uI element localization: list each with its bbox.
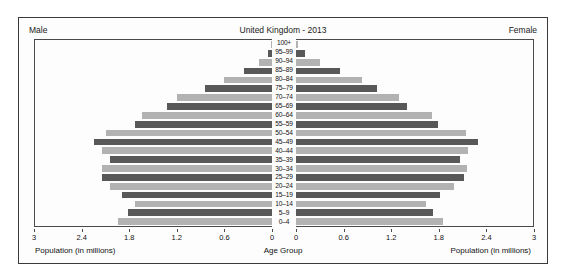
bar-row [296, 146, 533, 155]
bar-row [35, 67, 272, 76]
axis-tick [486, 229, 487, 232]
female-bar [296, 192, 440, 199]
female-plot-panel [296, 39, 534, 227]
axis-tick [344, 229, 345, 232]
bar-row [35, 208, 272, 217]
bar-row [296, 182, 533, 191]
male-bar [118, 218, 272, 225]
female-axis-title: Population (in millions) [451, 246, 531, 255]
bar-row [296, 120, 533, 129]
bar-row [296, 137, 533, 146]
age-group-labels: 100+95–9990–9485–8980–8475–7970–7465–696… [272, 39, 296, 227]
bar-row [296, 199, 533, 208]
male-bar [205, 85, 272, 92]
axis-tick-label: 1.2 [172, 233, 182, 242]
age-group-label: 85–89 [272, 66, 296, 75]
bar-row [296, 129, 533, 138]
axis-tick [177, 229, 178, 232]
axis-tick [34, 229, 35, 232]
age-group-label: 100+ [272, 39, 296, 48]
bar-row [296, 67, 533, 76]
age-group-label: 30–34 [272, 164, 296, 173]
bar-row [296, 111, 533, 120]
female-bar-rows [296, 40, 533, 226]
axis-tick [82, 229, 83, 232]
axis-tick [296, 229, 297, 232]
female-bar [296, 130, 466, 137]
male-bar [259, 59, 272, 66]
bar-row [296, 58, 533, 67]
male-bar [122, 192, 272, 199]
plot-area: 100+95–9990–9485–8980–8475–7970–7465–696… [34, 39, 534, 227]
bar-row [296, 164, 533, 173]
male-plot-panel [34, 39, 272, 227]
bar-row [296, 191, 533, 200]
bar-row [35, 75, 272, 84]
axis-tick-label: 1.2 [386, 233, 396, 242]
male-bar [102, 174, 272, 181]
bar-row [35, 129, 272, 138]
male-bar [142, 112, 272, 119]
axis-tick-label: 2.4 [76, 233, 86, 242]
axis-tick-label: 0 [270, 233, 274, 242]
female-bar [296, 59, 320, 66]
age-group-label: 40–44 [272, 146, 296, 155]
female-bar [296, 112, 432, 119]
female-bar [296, 139, 478, 146]
male-bar [106, 130, 272, 137]
male-bar [244, 68, 272, 75]
age-group-label: 45–49 [272, 137, 296, 146]
axis-tick-label: 3 [32, 233, 36, 242]
bar-row [35, 182, 272, 191]
female-bar [296, 183, 454, 190]
male-bar [177, 94, 272, 101]
axis-tick-label: 0.6 [219, 233, 229, 242]
chart-title: United Kingdom - 2013 [19, 25, 547, 35]
bar-row [35, 120, 272, 129]
bar-row [296, 75, 533, 84]
female-bar [296, 50, 305, 57]
male-bar [224, 77, 272, 84]
female-bar [296, 85, 377, 92]
bar-row [296, 49, 533, 58]
age-group-label: 0–4 [272, 218, 296, 227]
female-bar [296, 147, 468, 154]
male-bar [94, 139, 272, 146]
chart-frame: Male United Kingdom - 2013 Female 100+95… [18, 17, 548, 264]
bar-row [35, 164, 272, 173]
age-group-label: 60–64 [272, 111, 296, 120]
axis-tick [534, 229, 535, 232]
male-bar [110, 156, 272, 163]
bar-row [296, 208, 533, 217]
female-bar [296, 41, 298, 48]
axis-tick [272, 229, 273, 232]
bar-row [35, 155, 272, 164]
age-group-label: 50–54 [272, 129, 296, 138]
female-bar [296, 201, 426, 208]
bar-row [296, 93, 533, 102]
bar-row [35, 191, 272, 200]
female-side-label: Female [509, 25, 537, 35]
bar-row [35, 217, 272, 226]
bar-row [35, 146, 272, 155]
axis-tick [129, 229, 130, 232]
female-bar [296, 165, 467, 172]
bar-row [35, 102, 272, 111]
axis-tick [391, 229, 392, 232]
age-group-label: 90–94 [272, 57, 296, 66]
female-bar [296, 94, 399, 101]
female-bar [296, 209, 433, 216]
male-bar [135, 121, 272, 128]
male-bar [110, 183, 272, 190]
male-bar [102, 165, 272, 172]
bar-row [296, 40, 533, 49]
male-bar [128, 209, 272, 216]
age-group-label: 35–39 [272, 155, 296, 164]
axis-tick-label: 2.4 [481, 233, 491, 242]
male-bar-rows [35, 40, 272, 226]
bar-row [35, 173, 272, 182]
bar-row [296, 84, 533, 93]
age-group-label: 80–84 [272, 75, 296, 84]
axis-tick-label: 0 [294, 233, 298, 242]
bar-row [296, 102, 533, 111]
